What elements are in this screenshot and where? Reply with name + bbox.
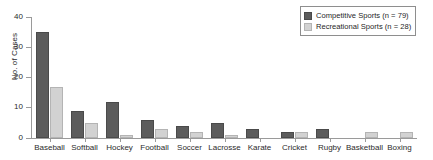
y-tick: 10 [0, 107, 32, 108]
y-tick-mark [26, 77, 32, 78]
legend-label-competitive: Competitive Sports (n = 79) [316, 11, 409, 20]
y-tick: 40 [0, 17, 32, 18]
y-tick-mark [26, 107, 32, 108]
y-axis-title: No. of Cases [10, 17, 19, 97]
y-tick: 20 [0, 77, 32, 78]
legend-swatch-competitive [304, 12, 312, 20]
x-axis-label: Boxing [376, 143, 423, 153]
y-tick-label: 20 [0, 73, 23, 81]
x-tick [365, 138, 366, 142]
x-tick [155, 138, 156, 142]
bar-chart: No. of Cases Competitive Sports (n = 79)… [0, 0, 433, 160]
chart-legend: Competitive Sports (n = 79) Recreational… [300, 6, 416, 36]
x-tick [85, 138, 86, 142]
legend-item: Competitive Sports (n = 79) [304, 10, 411, 21]
bar [400, 132, 413, 138]
y-tick-mark [26, 47, 32, 48]
y-tick-label: 40 [0, 13, 23, 21]
x-tick [50, 138, 51, 142]
x-tick [330, 138, 331, 142]
x-tick [295, 138, 296, 142]
y-tick-label: 10 [0, 103, 23, 111]
x-tick [190, 138, 191, 142]
y-tick-label: 0 [0, 134, 23, 142]
legend-label-recreational: Recreational Sports (n = 28) [316, 22, 411, 31]
y-tick: 30 [0, 47, 32, 48]
legend-swatch-recreational [304, 23, 312, 31]
x-tick [260, 138, 261, 142]
y-tick: 0 [0, 138, 32, 139]
x-tick [400, 138, 401, 142]
y-tick-mark [26, 138, 32, 139]
x-tick [120, 138, 121, 142]
y-tick-label: 30 [0, 43, 23, 51]
y-tick-mark [26, 17, 32, 18]
legend-item: Recreational Sports (n = 28) [304, 21, 411, 32]
x-tick [225, 138, 226, 142]
